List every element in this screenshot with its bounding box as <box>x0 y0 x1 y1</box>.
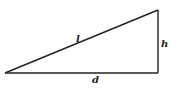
base-label: d <box>92 74 99 85</box>
hypotenuse-line <box>5 10 158 73</box>
triangle-diagram: l h d <box>0 0 171 94</box>
hypotenuse-label: l <box>76 33 80 44</box>
height-label: h <box>161 38 168 49</box>
